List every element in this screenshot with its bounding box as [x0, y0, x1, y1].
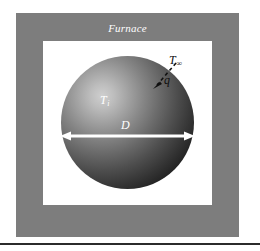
- furnace-enclosure: Furnace Ti: [16, 13, 239, 237]
- bottom-divider: [0, 243, 260, 245]
- sphere-body: [61, 56, 194, 189]
- surroundings-temperature-label: T∞: [169, 54, 182, 68]
- surroundings-temperature-subscript: ∞: [176, 59, 182, 68]
- surroundings-temperature-symbol: T: [169, 53, 176, 67]
- furnace-cavity: Ti D T∞ q: [43, 41, 212, 205]
- figure-root: Furnace Ti: [0, 0, 260, 251]
- furnace-label: Furnace: [16, 22, 239, 35]
